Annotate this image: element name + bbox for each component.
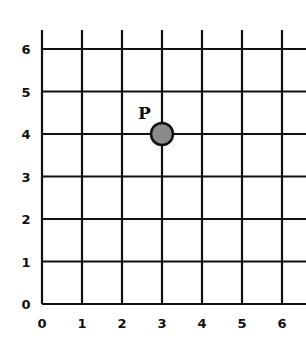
y-tick-label: 2 bbox=[21, 212, 30, 227]
x-tick-label: 5 bbox=[237, 316, 246, 331]
x-tick-label: 6 bbox=[277, 316, 286, 331]
grid-lines bbox=[42, 30, 306, 304]
coordinate-grid: 0123456 0123456 P bbox=[0, 0, 306, 348]
y-tick-label: 0 bbox=[21, 297, 30, 312]
y-tick-label: 4 bbox=[21, 127, 30, 142]
x-tick-label: 1 bbox=[77, 316, 86, 331]
y-tick-label: 1 bbox=[21, 255, 30, 270]
point-marker bbox=[151, 123, 173, 145]
x-axis-labels: 0123456 bbox=[37, 316, 286, 331]
y-tick-label: 5 bbox=[21, 85, 30, 100]
y-tick-label: 6 bbox=[21, 42, 30, 57]
point-p: P bbox=[138, 103, 173, 145]
x-tick-label: 4 bbox=[197, 316, 206, 331]
y-axis-labels: 0123456 bbox=[21, 42, 30, 312]
x-tick-label: 3 bbox=[157, 316, 166, 331]
x-tick-label: 0 bbox=[37, 316, 46, 331]
point-label: P bbox=[138, 103, 151, 123]
y-tick-label: 3 bbox=[21, 170, 30, 185]
x-tick-label: 2 bbox=[117, 316, 126, 331]
